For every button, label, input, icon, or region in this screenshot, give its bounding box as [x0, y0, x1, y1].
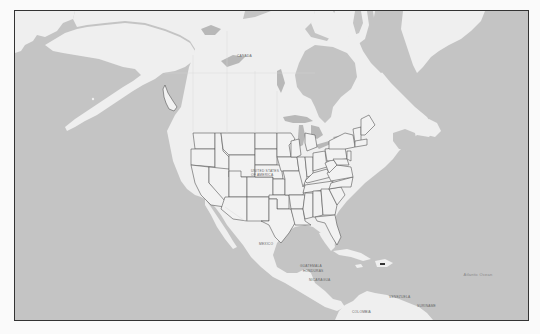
- state-kansas[interactable]: [273, 179, 285, 195]
- state-washington[interactable]: [193, 133, 215, 149]
- label-nicaragua: Nicaragua: [309, 279, 330, 282]
- state-oregon[interactable]: [191, 149, 215, 167]
- label-venezuela: Venezuela: [389, 296, 410, 299]
- state-mississippi[interactable]: [303, 193, 313, 219]
- label-mexico: Mexico: [259, 243, 273, 246]
- greenland: [401, 11, 485, 73]
- state-wisconsin[interactable]: [291, 139, 301, 157]
- label-honduras: Honduras: [303, 270, 323, 273]
- label-atlantic-ocean: Atlantic Ocean: [463, 273, 493, 277]
- state-new-jersey[interactable]: [347, 151, 351, 161]
- state-colorado[interactable]: [247, 177, 273, 197]
- label-canada: Canada: [237, 55, 252, 58]
- label-usa-line2: of America: [251, 174, 273, 177]
- state-new-mexico[interactable]: [247, 197, 269, 221]
- state-montana[interactable]: [221, 133, 255, 155]
- puerto-rico-marker[interactable]: [380, 263, 385, 265]
- alaska-panhandle-outline[interactable]: [163, 85, 177, 111]
- label-suriname: Suriname: [417, 305, 436, 308]
- hawaii: [92, 98, 94, 100]
- label-guatemala: Guatemala: [300, 265, 322, 268]
- cuba: [333, 249, 371, 261]
- map-frame[interactable]: Canada United States of America Mexico G…: [14, 10, 529, 321]
- label-colombia: Colombia: [352, 311, 371, 314]
- state-arkansas[interactable]: [289, 195, 305, 209]
- jamaica: [355, 264, 363, 268]
- state-north-dakota[interactable]: [255, 133, 277, 149]
- map-canvas[interactable]: [15, 11, 528, 320]
- state-south-dakota[interactable]: [255, 149, 277, 165]
- state-iowa[interactable]: [277, 157, 299, 171]
